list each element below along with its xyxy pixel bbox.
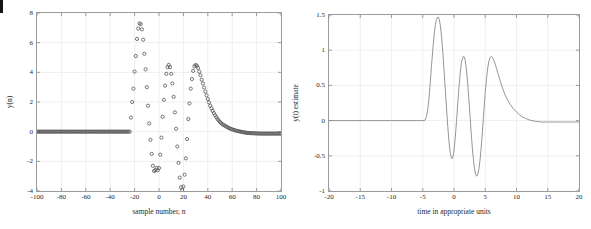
right-plot-ytick-label: -1 — [302, 188, 325, 195]
right-plot-axes — [328, 14, 580, 192]
right-plot-xtick-label: 15 — [544, 194, 551, 201]
right-plot-xtick-label: 0 — [452, 194, 456, 201]
left-plot-ytick-label: 0 — [10, 128, 33, 135]
right-plot-xtick-label: 5 — [484, 194, 488, 201]
right-plot-ytick-label: 0 — [302, 117, 325, 124]
left-plot-ytick-label: 4 — [10, 69, 33, 76]
left-plot-xtick-label: -40 — [106, 194, 115, 201]
left-plot-xtick-label: -80 — [57, 194, 66, 201]
right-plot-xtick-label: -10 — [387, 194, 396, 201]
right-plot-ytick-label: -0.5 — [302, 152, 325, 159]
left-plot-xtick-label: 100 — [276, 194, 287, 201]
left-plot-xtick-label: 0 — [157, 194, 161, 201]
left-plot-ytick-label: 8 — [10, 10, 33, 17]
right-plot-ytick-label: 1 — [302, 47, 325, 54]
left-plot-xtick-label: -20 — [130, 194, 139, 201]
page-edge-mark — [0, 0, 3, 13]
right-plot-canvas — [329, 15, 579, 191]
right-plot-gridlines — [329, 15, 579, 191]
right-plot-ytick-label: 1.5 — [302, 12, 325, 19]
left-plot-xtick-label: 40 — [204, 194, 211, 201]
right-plot-xtick-label: -15 — [356, 194, 365, 201]
right-plot-xtick-label: -5 — [420, 194, 426, 201]
right-plot-xtick-label: 10 — [513, 194, 520, 201]
left-plot-xtick-label: 20 — [180, 194, 187, 201]
left-plot-ytick-label: -4 — [10, 188, 33, 195]
left-plot-xtick-label: 60 — [229, 194, 236, 201]
right-plot-xtick-label: 20 — [576, 194, 583, 201]
left-plot-axes — [36, 12, 282, 192]
left-plot-canvas — [37, 13, 281, 191]
right-plot-xtick-label: -20 — [324, 194, 333, 201]
right-plot-xaxis-label: time in appropriate units — [417, 208, 491, 216]
left-plot-xaxis-label: sample number, n — [132, 208, 185, 216]
right-plot-ytick-label: 0.5 — [302, 82, 325, 89]
left-plot-xtick-label: -60 — [81, 194, 90, 201]
left-plot-gridlines — [37, 13, 281, 191]
right-plot-yaxis-label: y(t) estimate — [292, 84, 300, 122]
left-plot-xtick-label: 80 — [253, 194, 260, 201]
left-plot-yaxis-label: y(n) — [6, 96, 14, 109]
left-plot-xtick-label: -100 — [31, 194, 44, 201]
left-plot-ytick-label: -2 — [10, 158, 33, 165]
left-plot-ytick-label: 6 — [10, 39, 33, 46]
